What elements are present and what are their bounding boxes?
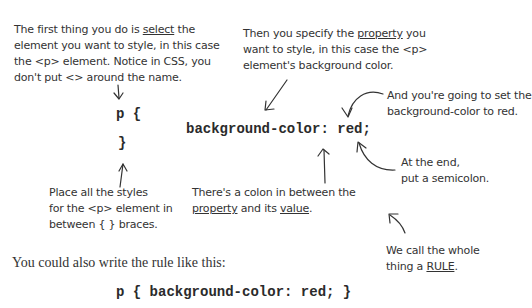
arrow-down-left-icon	[265, 80, 287, 110]
arrow-curved-icon	[342, 92, 383, 117]
arrow-curved-icon	[357, 142, 395, 170]
arrow-down-icon	[114, 85, 123, 99]
arrows-layer	[0, 0, 532, 308]
arrow-up-icon	[318, 149, 329, 183]
arrow-up-icon	[119, 164, 127, 187]
arrow-curved-icon	[389, 214, 405, 233]
